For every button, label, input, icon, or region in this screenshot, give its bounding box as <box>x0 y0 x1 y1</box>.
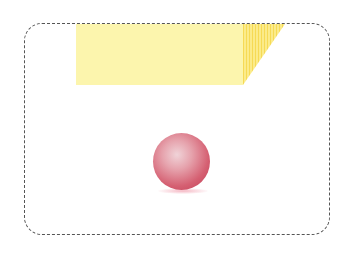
block-front-face <box>76 24 243 85</box>
red-ball <box>153 133 210 190</box>
block-side-face <box>243 24 285 85</box>
yellow-block <box>0 0 356 257</box>
